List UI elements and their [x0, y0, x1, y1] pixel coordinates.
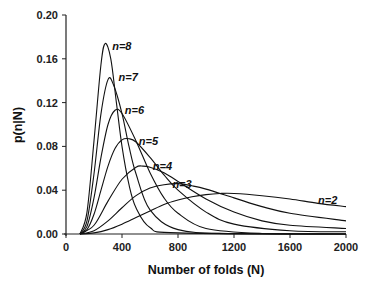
label-n2: n=2 — [318, 194, 337, 206]
label-n7: n=7 — [119, 71, 139, 83]
x-tick-label: 400 — [113, 241, 131, 253]
label-n4: n=4 — [153, 160, 172, 172]
label-n6: n=6 — [125, 104, 145, 116]
y-axis-label: p(n|N) — [11, 107, 25, 143]
x-tick-label: 2000 — [334, 241, 358, 253]
y-tick-label: 0.08 — [37, 140, 58, 152]
curve-n4 — [80, 166, 346, 234]
x-axis-label: Number of folds (N) — [148, 263, 265, 277]
y-tick-label: 0.16 — [37, 53, 58, 65]
x-tick-label: 1200 — [222, 241, 246, 253]
label-n5: n=5 — [139, 135, 159, 147]
y-tick-label: 0.04 — [37, 184, 59, 196]
y-tick-label: 0.12 — [37, 97, 58, 109]
y-tick-label: 0.00 — [37, 228, 58, 240]
chart: 0.000.040.080.120.160.200400800120016002… — [0, 0, 365, 286]
curve-n5 — [80, 138, 346, 234]
curve-n7 — [80, 78, 346, 234]
label-n8: n=8 — [112, 40, 132, 52]
y-tick-label: 0.20 — [37, 9, 58, 21]
x-tick-label: 0 — [63, 241, 69, 253]
annotations: n=8n=7n=6n=5n=4n=3n=2 — [112, 40, 337, 206]
x-tick-label: 800 — [169, 241, 187, 253]
label-n3: n=3 — [172, 178, 191, 190]
x-tick-label: 1600 — [278, 241, 302, 253]
curve-n2 — [80, 193, 346, 234]
